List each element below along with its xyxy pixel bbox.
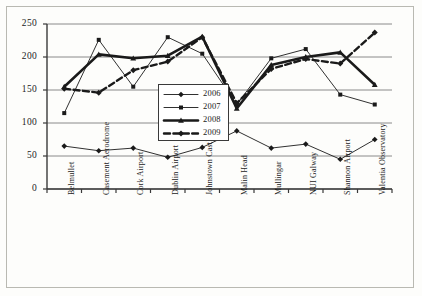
legend-item-2006: 2006 [159,88,230,101]
legend-swatch-2008 [162,114,202,127]
legend-label: 2008 [203,114,221,124]
x-axis-label-johnstown-castle: Johnstown Castle [205,136,214,195]
data-point [131,85,135,89]
data-point [130,67,136,73]
data-point [234,128,240,134]
data-point [200,52,204,56]
chart-page: 050100150200250 BelmulletCasement Aerodr… [0,0,422,296]
data-point [269,56,273,60]
data-point [61,143,67,149]
data-point [304,47,308,51]
legend-item-2008: 2008 [159,114,230,127]
x-axis-label-malin-head: Malin Head [240,155,249,195]
data-point [166,35,170,39]
legend-swatch-2006 [162,88,202,101]
x-axis-label-mullingar: Mullingar [274,161,283,195]
legend-item-2009: 2009 [159,127,230,140]
x-axis-label-dublin-airport: Dublin Airport [171,145,180,195]
x-axis-label-valentia-observatory: Valentia Observatory [378,123,387,195]
data-point [97,38,101,42]
data-point [338,93,342,97]
data-point [372,137,378,143]
y-axis-tick-label: 150 [11,84,37,94]
legend-label: 2009 [203,127,221,137]
data-point [165,155,171,161]
y-axis-tick-label: 50 [11,150,37,160]
data-point [303,141,309,147]
data-point [96,148,102,154]
y-axis-tick-label: 250 [11,18,37,28]
y-axis-tick-label: 0 [11,183,37,193]
legend-item-2007: 2007 [159,101,230,114]
data-point [62,111,66,115]
legend-label: 2006 [203,88,221,98]
chart-legend: 2006200720082009 [158,84,229,141]
data-point [61,86,67,92]
y-axis-tick-label: 200 [11,51,37,61]
data-point [373,103,377,107]
x-axis-label-cork-airport: Cork Airport [136,151,145,195]
data-point [268,145,274,151]
x-axis-label-nui-galway: NUI Galway [309,152,318,195]
legend-label: 2007 [203,101,221,111]
x-axis-label-casement-aerodrome: Casement Aerodrome [102,122,111,195]
x-axis-label-belmullet: Belmullet [67,162,76,195]
legend-swatch-2007 [162,101,202,114]
x-axis-label-shannon-airport: Shannon Airport [343,139,352,195]
y-axis-tick-label: 100 [11,117,37,127]
legend-swatch-2009 [162,127,202,140]
